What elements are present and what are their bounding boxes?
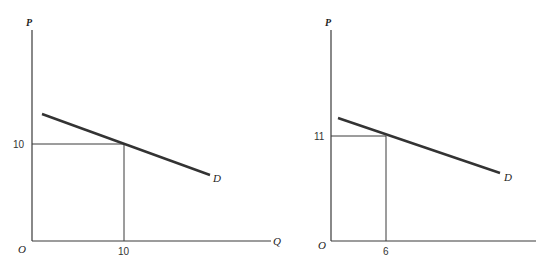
right-demand-curve [338,118,500,173]
left-q-label: Q [273,235,281,247]
right-x-tick: 6 [383,246,389,257]
left-origin-label: O [18,243,26,255]
left-d-label: D [212,172,221,184]
left-y-tick: 10 [13,139,25,150]
right-origin-label: O [318,239,326,251]
demand-charts: P O D Q 10 10 P O D 11 6 [0,0,536,268]
right-p-label: P [325,17,332,28]
left-p-label: P [26,17,33,28]
left-chart: P O D Q 10 10 [13,17,281,257]
left-x-tick: 10 [118,246,130,257]
right-y-tick: 11 [314,131,325,142]
right-d-label: D [503,171,512,183]
right-chart: P O D 11 6 [314,17,536,257]
